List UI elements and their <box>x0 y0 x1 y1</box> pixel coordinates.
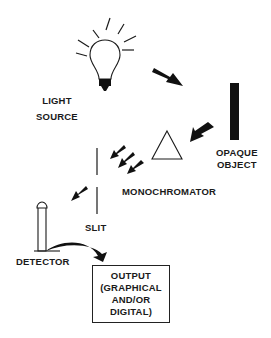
opaque-object-label: OPAQUE OBJECT <box>216 147 258 171</box>
monochromator-label: MONOCHROMATOR <box>122 186 216 198</box>
monochromator-prism-icon <box>152 131 182 159</box>
output-label-line4: DIGITAL) <box>110 306 152 318</box>
detector-tube-icon <box>34 202 60 251</box>
light-source-label-line2: SOURCE <box>36 111 78 123</box>
light-source-label-line1: LIGHT <box>36 95 78 107</box>
opaque-object-label-line1: OPAQUE <box>216 147 258 159</box>
light-beam-arrow-3 <box>71 186 88 201</box>
output-label-line3: AND/OR <box>112 294 151 306</box>
opaque-object-bar <box>230 83 239 140</box>
detector-label: DETECTOR <box>16 256 70 268</box>
output-label-line1: OUTPUT <box>111 270 151 282</box>
dispersed-beam-arrows <box>110 145 144 174</box>
light-beam-arrow-2 <box>190 122 214 142</box>
light-source-label: LIGHT SOURCE <box>36 95 78 123</box>
light-bulb-icon <box>90 40 120 91</box>
output-box: OUTPUT (GRAPHICAL AND/OR DIGITAL) <box>92 265 170 323</box>
opaque-object-label-line2: OBJECT <box>216 159 258 171</box>
slit-label: SLIT <box>85 222 106 234</box>
output-label-line2: (GRAPHICAL <box>100 282 162 294</box>
light-beam-arrow-1 <box>152 68 183 86</box>
